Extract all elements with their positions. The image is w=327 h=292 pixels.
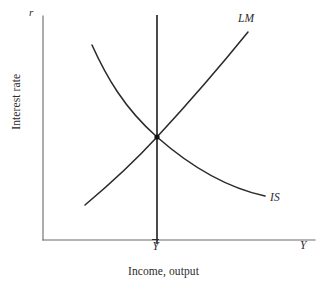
equilibrium-point-marker <box>154 134 159 139</box>
y-axis-caption: Interest rate <box>11 47 23 157</box>
y-bar-tick-label: Y <box>152 241 159 253</box>
lm-curve <box>85 32 248 205</box>
is-lm-diagram: LM IS r Y Y Income, output Interest rate <box>0 0 327 292</box>
x-axis-caption: Income, output <box>0 266 327 278</box>
lm-curve-label: LM <box>238 13 254 25</box>
y-bar-glyph: Y <box>152 241 159 253</box>
is-curve <box>92 45 265 196</box>
x-axis-symbol-label: Y <box>300 240 306 252</box>
plot-area <box>0 0 327 292</box>
y-axis-symbol-label: r <box>29 7 33 18</box>
is-curve-label: IS <box>270 192 280 204</box>
